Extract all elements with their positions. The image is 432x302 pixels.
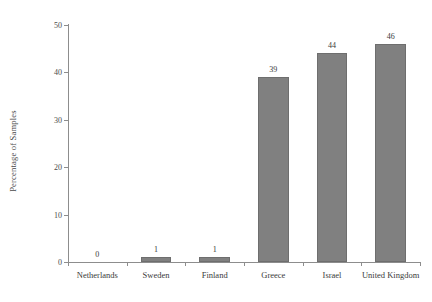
y-axis-tick-label: 30 [40,115,62,124]
x-axis-category-label: Israel [323,270,342,280]
x-axis-tick [361,262,362,266]
x-axis-category-label: Sweden [143,270,170,280]
y-axis-tick-label: 0 [40,258,62,267]
bar-group[interactable]: 44 [317,25,348,262]
x-axis-tick [185,262,186,266]
bar[interactable] [375,44,406,262]
bar-group[interactable]: 1 [141,25,172,262]
x-axis-tick [420,262,421,266]
bar-chart: Percentage of Samples 01020304050 011394… [0,0,432,302]
bar[interactable] [258,77,289,262]
x-axis-tick [244,262,245,266]
bar-value-label: 39 [269,65,277,74]
bar-group[interactable]: 46 [375,25,406,262]
y-axis-tick-label: 40 [40,68,62,77]
bar[interactable] [141,257,172,262]
bar-group[interactable]: 39 [258,25,289,262]
bar-value-label: 1 [154,245,158,254]
bar-value-label: 0 [95,250,99,259]
plot-area: 011394446 [68,25,420,262]
x-axis-category-label: Greece [261,270,285,280]
x-axis-category-label: Finland [202,270,228,280]
x-axis-category-label: United Kingdom [362,270,419,280]
x-axis-tick [68,262,69,266]
x-axis-category-label: Netherlands [77,270,118,280]
bar-group[interactable]: 0 [82,25,113,262]
bar-value-label: 46 [387,32,395,41]
y-axis-tick-label: 20 [40,163,62,172]
bar-value-label: 44 [328,41,336,50]
y-axis-title: Percentage of Samples [0,0,26,302]
bar-group[interactable]: 1 [199,25,230,262]
bar[interactable] [317,53,348,262]
y-axis-tick-label: 50 [40,21,62,30]
x-axis-tick [303,262,304,266]
y-axis-tick-label: 10 [40,210,62,219]
x-axis-tick [127,262,128,266]
bar-value-label: 1 [213,245,217,254]
bar[interactable] [199,257,230,262]
